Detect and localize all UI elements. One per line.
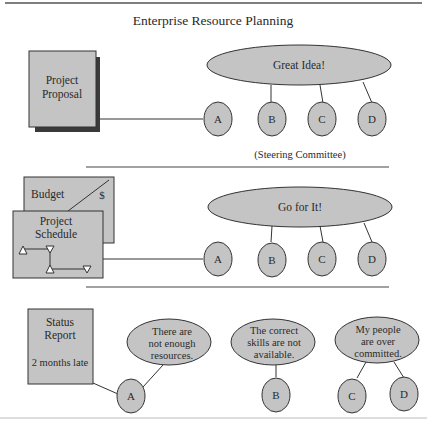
proposal-label-1: Project [46, 74, 79, 87]
node-b: B [262, 378, 290, 412]
node-a: A [117, 379, 145, 413]
bubble-overcommitted-line: committed. [354, 348, 402, 359]
svg-text:C: C [348, 390, 355, 402]
svg-text:B: B [268, 254, 275, 266]
link-a [143, 365, 163, 387]
link-d [363, 82, 372, 103]
node-c: C [308, 102, 336, 136]
node-d: D [358, 242, 386, 276]
link-c [320, 85, 323, 103]
link-c [357, 362, 366, 378]
svg-text:C: C [318, 253, 325, 265]
schedule-label-2: Schedule [35, 228, 77, 240]
status-report-label-2: Report [44, 329, 76, 342]
node-c: C [308, 242, 336, 276]
link-d [394, 362, 404, 378]
bubble-overcommitted-line: My people [355, 324, 401, 335]
steering-committee-caption: (Steering Committee) [254, 149, 346, 161]
bubble-skills-line: available. [254, 349, 295, 360]
link-d [364, 223, 372, 242]
bubble-resources-line: resources. [151, 350, 193, 361]
erp-diagram: Enterprise Resource Planning Project Pro… [0, 0, 427, 425]
bubble-skills-line: skills are not [247, 337, 301, 348]
panel-go: Budget $ Project Schedule Go for It! A B… [13, 177, 392, 278]
great-idea-label: Great Idea! [273, 59, 325, 71]
svg-text:C: C [318, 113, 325, 125]
node-a: A [204, 102, 232, 136]
panel-status: Status Report 2 months late There are no… [28, 309, 419, 413]
node-b: B [258, 243, 286, 277]
node-a: A [204, 242, 232, 276]
budget-symbol: $ [99, 189, 105, 201]
status-report-note: 2 months late [32, 357, 89, 368]
svg-text:A: A [127, 390, 135, 402]
node-d: D [358, 102, 386, 136]
svg-text:D: D [400, 388, 408, 400]
proposal-label-2: Proposal [42, 88, 82, 101]
bubble-resources-line: There are [152, 326, 192, 337]
bubble-overcommitted-line: are over [361, 336, 396, 347]
connector-report-a [93, 383, 118, 394]
svg-text:D: D [368, 113, 376, 125]
status-report-label-1: Status [46, 316, 75, 328]
schedule-label-1: Project [40, 215, 73, 228]
go-for-it-label: Go for It! [278, 201, 322, 213]
bubble-resources-line: not enough [149, 338, 197, 349]
diagram-title: Enterprise Resource Planning [133, 13, 294, 28]
budget-label: Budget [31, 188, 65, 201]
svg-text:A: A [214, 253, 222, 265]
link-c [320, 226, 323, 242]
node-d: D [390, 377, 418, 411]
svg-text:B: B [268, 113, 275, 125]
svg-text:D: D [368, 253, 376, 265]
node-c: C [338, 379, 366, 413]
link-b [271, 226, 272, 242]
panel-proposal: Project Proposal Great Idea! A B C D (St… [29, 45, 391, 161]
bubble-skills-line: The correct [250, 325, 298, 336]
node-b: B [258, 102, 286, 136]
svg-text:A: A [214, 113, 222, 125]
svg-text:B: B [272, 389, 279, 401]
